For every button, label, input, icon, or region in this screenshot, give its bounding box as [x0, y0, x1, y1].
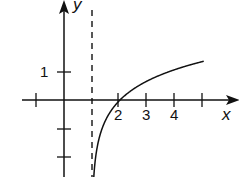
x-axis-label: x	[222, 106, 231, 123]
y-axis-label: y	[73, 0, 82, 13]
y-tick-label-1: 1	[40, 64, 48, 79]
graph: y x 1 2 3 4	[0, 0, 239, 177]
x-tick-label-4: 4	[170, 107, 178, 122]
x-tick-label-2: 2	[114, 107, 122, 122]
x-tick-label-3: 3	[142, 107, 150, 122]
plot-area	[0, 0, 239, 177]
